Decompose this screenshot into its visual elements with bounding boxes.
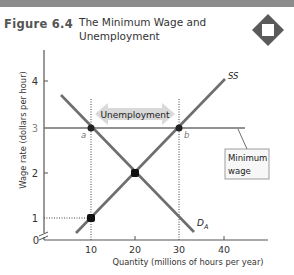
unemployment-label: Unemployment bbox=[100, 110, 170, 120]
y-tick-1: 1 bbox=[32, 213, 38, 224]
equilibrium-point bbox=[131, 169, 139, 177]
axis-break-icon bbox=[39, 232, 48, 240]
point-a bbox=[88, 125, 95, 132]
min-wage-label-1: Minimum bbox=[228, 153, 267, 163]
y-tick-3: 3 bbox=[32, 123, 38, 134]
y-tick-4: 4 bbox=[32, 76, 38, 87]
point-b-label: b bbox=[184, 130, 189, 140]
chart: 4 3 2 1 0 10 20 30 40 Quantity (millions… bbox=[0, 0, 294, 275]
point-b bbox=[176, 125, 183, 132]
x-tick-30: 30 bbox=[173, 244, 185, 255]
y-axis-label: Wage rate (dollars per hour) bbox=[18, 71, 28, 189]
point-a-label: a bbox=[81, 130, 86, 140]
diamond-icon bbox=[252, 14, 284, 46]
demand-label: DA bbox=[197, 218, 208, 231]
x-axis-label: Quantity (millions of hours per year) bbox=[112, 257, 263, 267]
point-q10-w1 bbox=[87, 214, 95, 222]
x-tick-40: 40 bbox=[218, 244, 230, 255]
supply-curve bbox=[76, 79, 225, 233]
callout-leader bbox=[238, 129, 247, 149]
demand-label-subscript: A bbox=[203, 223, 208, 231]
x-tick-10: 10 bbox=[85, 244, 97, 255]
min-wage-label-2: wage bbox=[228, 166, 251, 176]
supply-label: SS bbox=[228, 71, 239, 81]
x-tick-20: 20 bbox=[129, 244, 141, 255]
y-tick-2: 2 bbox=[32, 168, 38, 179]
origin-label: 0 bbox=[33, 235, 39, 246]
